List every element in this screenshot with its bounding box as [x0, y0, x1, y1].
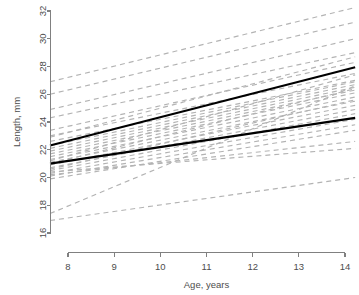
x-tick-label: 11: [202, 261, 212, 272]
y-tick-label: 28: [37, 61, 48, 72]
subject-line: [50, 22, 355, 94]
subject-line: [50, 39, 355, 110]
x-tick-label: 13: [294, 261, 305, 272]
y-tick-label: 22: [37, 144, 48, 155]
y-tick-label: 20: [37, 172, 48, 183]
x-tick-label: 9: [112, 261, 117, 272]
axes-group: 161820222426283032Length, mm891011121314…: [11, 6, 351, 290]
y-tick-label: 26: [37, 89, 48, 100]
y-axis-title: Length, mm: [11, 97, 22, 147]
x-tick-label: 14: [340, 261, 351, 272]
x-tick-label: 10: [155, 261, 166, 272]
y-tick-label: 24: [37, 117, 48, 128]
y-tick-label: 18: [37, 200, 48, 211]
plot-canvas: 161820222426283032Length, mm891011121314…: [0, 0, 359, 295]
subject-line: [50, 130, 355, 179]
subject-line: [50, 178, 355, 221]
chart-figure: 161820222426283032Length, mm891011121314…: [0, 0, 359, 295]
x-tick-label: 12: [247, 261, 258, 272]
subject-trajectory-group: [50, 8, 355, 221]
subject-line: [50, 119, 355, 173]
x-tick-label: 8: [65, 261, 70, 272]
subject-line: [50, 82, 355, 146]
y-tick-label: 30: [37, 33, 48, 44]
subject-line: [50, 53, 355, 118]
subject-line: [50, 8, 355, 82]
x-axis-title: Age, years: [184, 279, 230, 290]
y-tick-label: 16: [37, 228, 48, 239]
y-tick-label: 32: [37, 6, 48, 17]
